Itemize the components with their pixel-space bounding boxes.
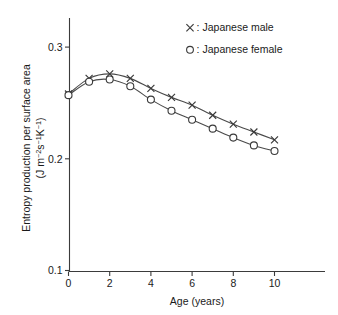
circle-marker-icon xyxy=(189,116,196,123)
x-tick-label: 10 xyxy=(269,277,281,289)
circle-marker-icon xyxy=(168,107,175,114)
circle-marker-icon xyxy=(127,83,134,90)
y-axis-title-main: Entropy production per surface area xyxy=(20,64,32,232)
svg-text:Age (years): Age (years) xyxy=(170,295,224,307)
circle-marker-icon xyxy=(230,134,237,141)
legend-label: Japanese female xyxy=(203,43,283,55)
circle-marker-icon xyxy=(147,96,154,103)
circle-marker-icon xyxy=(250,142,257,149)
legend-separator: : xyxy=(197,21,200,33)
entropy-production-line-chart: 0.10.20.30246810 :Japanese male:Japanese… xyxy=(0,0,338,315)
circle-marker-icon xyxy=(65,92,72,99)
legend-label: Japanese male xyxy=(203,21,274,33)
chart-figure: 0.10.20.30246810 :Japanese male:Japanese… xyxy=(0,0,338,315)
y-tick-label: 0.3 xyxy=(48,41,63,53)
y-tick-label: 0.1 xyxy=(48,264,63,276)
x-tick-label: 4 xyxy=(148,277,154,289)
legend-separator: : xyxy=(197,43,200,55)
x-tick-label: 0 xyxy=(66,277,72,289)
x-tick-label: 2 xyxy=(107,277,113,289)
x-axis-title: Age (years) xyxy=(170,295,224,307)
circle-marker-icon xyxy=(106,76,113,83)
circle-marker-icon xyxy=(209,125,216,132)
x-tick-label: 6 xyxy=(189,277,195,289)
x-tick-label: 8 xyxy=(230,277,236,289)
legend-circle-marker-icon xyxy=(187,46,194,53)
circle-marker-icon xyxy=(86,78,93,85)
circle-marker-icon xyxy=(271,147,278,154)
y-tick-label: 0.2 xyxy=(48,153,63,165)
